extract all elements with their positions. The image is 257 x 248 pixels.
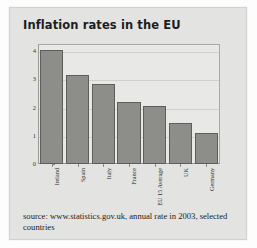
y-tick-label: 1 bbox=[33, 133, 36, 140]
bar bbox=[195, 133, 218, 164]
chart-title: Inflation rates in the EU bbox=[23, 18, 181, 32]
x-category-label: Ireland bbox=[54, 168, 60, 186]
bar bbox=[92, 84, 115, 164]
x-category-label: EU 15 Average bbox=[157, 168, 163, 206]
x-category-label: Italy bbox=[106, 168, 112, 179]
y-axis: 01234 bbox=[26, 44, 38, 164]
bar bbox=[143, 106, 166, 164]
x-tick-mark bbox=[180, 164, 181, 167]
x-category-label: Spain bbox=[80, 168, 86, 182]
x-category-label: Germany bbox=[209, 168, 215, 191]
bar bbox=[66, 75, 89, 164]
x-category-label: France bbox=[131, 168, 137, 185]
bar bbox=[117, 102, 140, 164]
figure-card: Inflation rates in the EU 01234 IrelandS… bbox=[9, 7, 247, 240]
x-tick-mark bbox=[103, 164, 104, 167]
x-tick-mark bbox=[206, 164, 207, 167]
y-tick-label: 0 bbox=[33, 161, 36, 168]
bar bbox=[169, 123, 192, 164]
x-tick-mark bbox=[155, 164, 156, 167]
bar bbox=[40, 50, 63, 164]
x-tick-mark bbox=[78, 164, 79, 167]
scanned-page: Inflation rates in the EU 01234 IrelandS… bbox=[0, 0, 257, 248]
x-category-label: UK bbox=[183, 168, 189, 177]
bar-series bbox=[39, 44, 219, 164]
x-tick-mark bbox=[129, 164, 130, 167]
x-axis: IrelandSpainItalyFranceEU 15 AverageUKGe… bbox=[39, 164, 219, 212]
y-tick-label: 2 bbox=[33, 104, 36, 111]
source-note: source: www.statistics.gov.uk, annual ra… bbox=[23, 211, 241, 234]
y-tick-label: 3 bbox=[33, 76, 36, 83]
y-tick-label: 4 bbox=[33, 48, 36, 55]
